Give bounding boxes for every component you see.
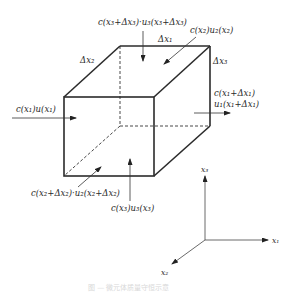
flux-label-right-line1: c(x₁+Δx₁) [214, 88, 255, 98]
cube-edge-top-left-depth [64, 46, 120, 97]
flux-label-bottom: c(x₃)u₃(x₃) [111, 203, 154, 213]
control-volume-diagram: c(x₃+Δx₃)·u₃(x₃+Δx₃) c(x₂)u₂(x₂) c(x₁)u(… [0, 0, 290, 295]
axis-label-x3: x₃ [201, 165, 208, 174]
edge-label-dx2: Δx₂ [79, 55, 95, 65]
axis-x2 [172, 240, 205, 264]
flux-arrow-front [78, 167, 101, 187]
figure-caption: 图 — 微元体质量守恒示意 [88, 283, 169, 292]
flux-label-front: c(x₂+Δx₂)·u₂(x₂+Δx₂) [31, 188, 120, 198]
edge-label-dx3: Δx₃ [212, 56, 228, 66]
flux-label-top: c(x₃+Δx₃)·u₃(x₃+Δx₃) [98, 17, 187, 27]
axis-label-x1: x₁ [272, 236, 279, 245]
flux-label-back: c(x₂)u₂(x₂) [190, 25, 233, 35]
hidden-edge-bottom-depth [64, 126, 120, 176]
coordinate-axes: x₃ x₁ x₂ [161, 165, 279, 277]
flux-label-right-line2: u₁(x₁+Δx₁) [214, 99, 259, 109]
axis-label-x2: x₂ [161, 268, 168, 277]
edge-label-dx1: Δx₁ [157, 34, 172, 44]
cube-edge-top-right-depth [154, 46, 210, 97]
flux-label-left: c(x₁)u(x₁) [16, 104, 56, 114]
